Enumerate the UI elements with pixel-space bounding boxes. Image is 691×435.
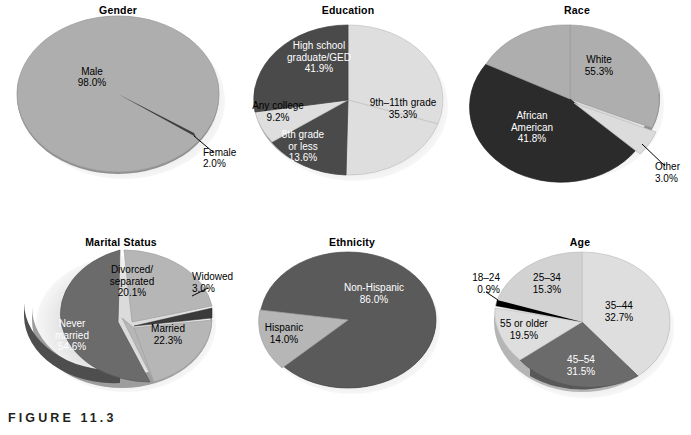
slice-label-35-44-value: 32.7% — [588, 312, 650, 324]
slice-label-african-american-value: 41.8% — [492, 133, 572, 145]
slice-label-non-hispanic-name: Non-Hispanic — [322, 282, 426, 294]
slice-label-white-value: 55.3% — [564, 66, 634, 78]
chart-panel-gender: Gender Male 9 — [8, 4, 228, 194]
slice-label-married-name: Married — [134, 323, 202, 335]
slice-label-8th-grade-name: 8th grade or less — [268, 129, 338, 152]
figure-canvas: Gender Male 9 — [0, 0, 691, 435]
slice-label-35-44-name: 35–44 — [588, 300, 650, 312]
slice-label-45-54-name: 45–54 — [550, 354, 612, 366]
chart-panel-race: Race — [466, 4, 688, 199]
slice-label-high-school-name: High school graduate/GED — [264, 40, 374, 63]
figure-caption: FIGURE 11.3 — [8, 411, 116, 425]
slice-label-widowed-value: 3.0% — [192, 283, 250, 295]
slice-label-9th-11th-name: 9th–11th grade — [355, 97, 451, 109]
slice-label-never-married-value: 54.6% — [38, 341, 106, 353]
chart-panel-ethnicity: Ethnicity Non-Hispanic 86.0% Hisp — [248, 236, 464, 411]
slice-label-widowed-name: Widowed — [192, 271, 250, 283]
chart-panel-marital-status: Marital Status — [16, 236, 246, 411]
slice-label-25-34-name: 25–34 — [516, 272, 578, 284]
pie-stage-age: 18–24 0.9% 25–34 15.3% 35–44 32.7% 45–54… — [458, 236, 688, 411]
slice-label-25-34-value: 15.3% — [516, 284, 578, 296]
slice-label-55-or-older-value: 19.5% — [484, 330, 564, 342]
slice-label-hispanic-value: 14.0% — [252, 334, 316, 346]
slice-label-married-value: 22.3% — [134, 335, 202, 347]
slice-label-18-24-value: 0.9% — [444, 284, 500, 296]
slice-label-8th-grade-value: 13.6% — [268, 152, 338, 164]
slice-label-divorced-name: Divorced/ separated — [86, 264, 178, 287]
slice-label-male-name: Male — [62, 66, 122, 78]
slice-label-white-name: White — [564, 54, 634, 66]
pie-chart-gender — [8, 4, 228, 194]
slice-label-18-24-name: 18–24 — [444, 272, 500, 284]
chart-panel-education: Education — [238, 4, 458, 199]
slice-label-male-value: 98.0% — [62, 77, 122, 89]
slice-label-55-or-older-name: 55 or older — [484, 318, 564, 330]
slice-label-any-college-value: 9.2% — [240, 112, 316, 124]
pie-stage-race: White 55.3% African American 41.8% Other… — [466, 4, 688, 199]
slice-label-other-value: 3.0% — [655, 173, 691, 185]
slice-label-african-american-name: African American — [492, 110, 572, 133]
slice-label-divorced-value: 20.1% — [86, 287, 178, 299]
slice-label-hispanic-name: Hispanic — [252, 322, 316, 334]
slice-label-never-married-name: Never married — [38, 318, 106, 341]
slice-label-other-name: Other — [655, 161, 691, 173]
chart-panel-age: Age — [458, 236, 688, 411]
slice-label-9th-11th-value: 35.3% — [355, 109, 451, 121]
pie-stage-education: High school graduate/GED 41.9% 9th–11th … — [238, 4, 458, 199]
pie-stage-ethnicity: Non-Hispanic 86.0% Hispanic 14.0% — [248, 236, 464, 411]
slice-label-non-hispanic-value: 86.0% — [322, 294, 426, 306]
slice-label-high-school-value: 41.9% — [264, 63, 374, 75]
slice-label-any-college-name: Any college — [240, 100, 316, 112]
pie-stage-gender: Male 98.0% Female 2.0% — [8, 4, 228, 194]
pie-stage-marital-status: Divorced/ separated 20.1% Widowed 3.0% M… — [16, 236, 246, 411]
slice-label-45-54-value: 31.5% — [550, 366, 612, 378]
